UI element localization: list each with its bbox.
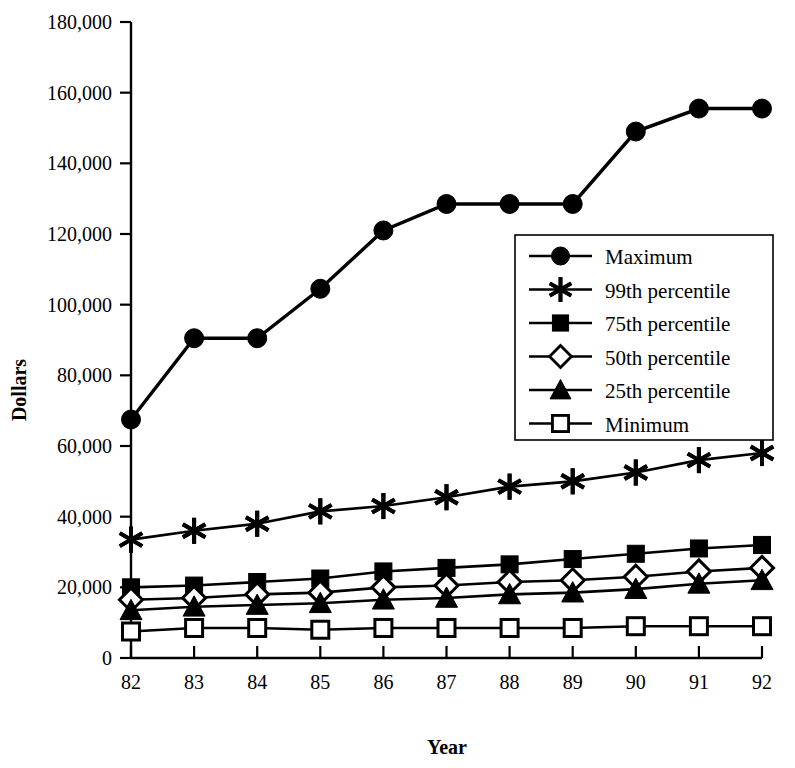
- marker-filled-square: [754, 536, 771, 553]
- x-tick-label: 83: [184, 671, 204, 693]
- x-tick-label: 82: [121, 671, 141, 693]
- y-axis-tick-labels: 020,00040,00060,00080,000100,000120,0001…: [47, 11, 112, 669]
- legend-item-label: 75th percentile: [605, 312, 730, 336]
- legend-item-label: Maximum: [605, 245, 693, 269]
- legend-item-label: 25th percentile: [605, 379, 730, 403]
- x-tick-label: 84: [247, 671, 267, 693]
- legend-item-minimum[interactable]: Minimum: [529, 413, 689, 437]
- marker-open-square: [312, 621, 329, 638]
- marker-open-square: [564, 619, 581, 636]
- x-axis-tick-marks: [131, 646, 762, 658]
- marker-filled-circle: [689, 99, 708, 118]
- y-tick-label: 80,000: [57, 364, 112, 386]
- marker-open-square: [552, 415, 568, 431]
- y-tick-label: 180,000: [47, 11, 112, 33]
- y-tick-label: 120,000: [47, 223, 112, 245]
- x-tick-label: 92: [752, 671, 772, 693]
- chart-container: 020,00040,00060,00080,000100,000120,0001…: [0, 0, 795, 768]
- y-tick-label: 100,000: [47, 294, 112, 316]
- marker-open-square: [249, 619, 266, 636]
- x-axis-tick-labels: 8283848586878889909192: [121, 671, 772, 693]
- x-tick-label: 91: [689, 671, 709, 693]
- marker-filled-square: [552, 315, 568, 331]
- y-tick-label: 140,000: [47, 152, 112, 174]
- marker-filled-circle: [626, 122, 645, 141]
- legend-item-label: Minimum: [605, 413, 689, 437]
- y-tick-label: 60,000: [57, 435, 112, 457]
- marker-open-square: [375, 619, 392, 636]
- marker-filled-square: [690, 540, 707, 557]
- marker-filled-circle: [185, 329, 204, 348]
- marker-filled-square: [564, 551, 581, 568]
- marker-open-square: [438, 619, 455, 636]
- x-tick-label: 87: [437, 671, 457, 693]
- marker-filled-square: [627, 545, 644, 562]
- x-axis-title: Year: [427, 736, 467, 758]
- legend-item-50th-percentile[interactable]: 50th percentile: [529, 346, 730, 370]
- x-tick-label: 86: [373, 671, 393, 693]
- marker-open-square: [690, 618, 707, 635]
- marker-filled-circle: [563, 194, 582, 213]
- marker-open-square: [123, 623, 140, 640]
- marker-open-square: [754, 618, 771, 635]
- line-chart: 020,00040,00060,00080,000100,000120,0001…: [0, 0, 795, 768]
- x-tick-label: 89: [563, 671, 583, 693]
- marker-filled-circle: [311, 279, 330, 298]
- x-tick-label: 90: [626, 671, 646, 693]
- y-axis-tick-marks: [120, 22, 131, 658]
- marker-filled-circle: [753, 99, 772, 118]
- y-tick-label: 40,000: [57, 506, 112, 528]
- marker-filled-circle: [551, 247, 569, 265]
- marker-filled-circle: [500, 194, 519, 213]
- x-tick-label: 85: [310, 671, 330, 693]
- marker-open-square: [186, 619, 203, 636]
- series-99th-percentile: [120, 440, 774, 553]
- marker-filled-circle: [122, 410, 141, 429]
- series-minimum: [123, 618, 771, 640]
- legend-item-99th-percentile[interactable]: 99th percentile: [529, 277, 730, 302]
- marker-filled-circle: [437, 194, 456, 213]
- y-tick-label: 0: [102, 647, 112, 669]
- legend-item-label: 50th percentile: [605, 346, 730, 370]
- marker-open-square: [501, 619, 518, 636]
- y-tick-label: 20,000: [57, 576, 112, 598]
- y-tick-label: 160,000: [47, 82, 112, 104]
- legend-item-label: 99th percentile: [605, 279, 730, 303]
- marker-filled-circle: [374, 221, 393, 240]
- y-axis-title: Dollars: [8, 359, 30, 421]
- marker-open-square: [627, 618, 644, 635]
- chart-legend: Maximum99th percentile75th percentile50t…: [515, 235, 773, 440]
- x-tick-label: 88: [500, 671, 520, 693]
- marker-filled-circle: [248, 329, 267, 348]
